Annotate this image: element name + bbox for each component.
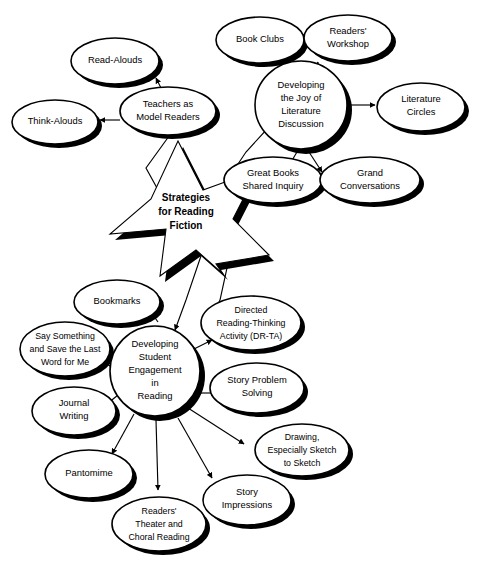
node-readers-theater-line-2: Theater and [135, 519, 183, 529]
node-dr-ta-line-1: Directed [235, 305, 268, 315]
node-drawing-especially-sketch-to-sketch[interactable]: Drawing, Especially Sketch to Sketch [255, 424, 353, 480]
link-engagement-to-story-impressions [178, 418, 212, 478]
concept-map-canvas: Strategies for Reading Fiction Read-Alou… [0, 0, 479, 572]
node-readers-workshop[interactable]: Readers' Workshop [304, 15, 396, 65]
node-say-something-line-1: Say Something [35, 331, 95, 341]
node-literature-circles-line-2: Circles [407, 106, 436, 117]
node-engagement-line-1: Developing [132, 338, 179, 349]
center-star-line-3: Fiction [170, 220, 203, 231]
node-grand-conversations[interactable]: Grand Conversations [320, 157, 424, 207]
node-book-clubs-label: Book Clubs [236, 33, 284, 44]
node-great-books-line-1: Great Books [247, 167, 299, 178]
node-developing-joy-of-literature-discussion[interactable]: Developing the Joy of Literature Discuss… [255, 61, 352, 154]
center-star-line-2: for Reading [158, 206, 214, 217]
node-say-something-line-3: Word for Me [41, 357, 89, 367]
node-pantomime[interactable]: Pantomime [45, 450, 137, 502]
node-story-problem-line-1: Story Problem [227, 374, 287, 385]
concept-map-diagram: Strategies for Reading Fiction Read-Alou… [0, 0, 479, 572]
node-read-alouds-label: Read-Alouds [88, 54, 143, 65]
node-think-alouds[interactable]: Think-Alouds [12, 100, 102, 148]
node-story-problem-line-2: Solving [242, 387, 273, 398]
node-teachers-as-model-readers[interactable]: Teachers as Model Readers [120, 87, 220, 139]
node-engagement-line-2: Student [139, 351, 172, 362]
node-readers-workshop-line-2: Workshop [327, 38, 369, 49]
node-journal-writing-line-2: Writing [60, 410, 89, 421]
node-drawing-line-2: Especially Sketch [268, 445, 337, 455]
node-story-impressions[interactable]: Story Impressions [203, 475, 295, 529]
node-story-problem-solving[interactable]: Story Problem Solving [210, 363, 308, 417]
node-journal-writing-line-1: Journal [59, 397, 90, 408]
node-teachers-line-2: Model Readers [136, 111, 200, 122]
node-directed-reading-thinking-activity[interactable]: Directed Reading-Thinking Activity (DR-T… [201, 296, 305, 354]
node-literature-circles-line-1: Literature [401, 93, 441, 104]
node-joy-line-1: Developing [278, 79, 325, 90]
node-think-alouds-label: Think-Alouds [28, 115, 83, 126]
node-dr-ta-line-3: Activity (DR-TA) [220, 331, 282, 341]
node-readers-theater-line-1: Readers' [142, 506, 177, 516]
node-engagement-line-3: Engagement [128, 364, 182, 375]
node-read-alouds[interactable]: Read-Alouds [71, 38, 163, 88]
node-teachers-line-1: Teachers as [143, 98, 194, 109]
node-joy-line-4: Discussion [278, 118, 323, 129]
link-engagement-to-readers-theater [156, 420, 158, 490]
node-say-something-line-2: and Save the Last [30, 344, 101, 354]
node-pantomime-label: Pantomime [65, 467, 112, 478]
node-readers-workshop-line-1: Readers' [329, 25, 366, 36]
node-joy-line-3: Literature [281, 105, 321, 116]
node-story-impressions-line-2: Impressions [222, 499, 273, 510]
node-literature-circles[interactable]: Literature Circles [377, 83, 469, 135]
node-grand-conversations-line-2: Conversations [340, 180, 400, 191]
node-joy-line-2: the Joy of [281, 92, 322, 103]
node-engagement-line-5: Reading [138, 390, 173, 401]
node-dr-ta-line-2: Reading-Thinking [217, 318, 286, 328]
node-great-books-line-2: Shared Inquiry [243, 180, 304, 191]
node-engagement-line-4: in [151, 377, 158, 388]
node-readers-theater-line-3: Choral Reading [128, 532, 189, 542]
node-bookmarks[interactable]: Bookmarks [74, 280, 164, 328]
node-story-impressions-line-1: Story [236, 486, 258, 497]
node-say-something-save-last-word[interactable]: Say Something and Save the Last Word for… [20, 322, 114, 380]
node-drawing-line-3: to Sketch [284, 458, 321, 468]
node-bookmarks-label: Bookmarks [94, 295, 141, 306]
node-grand-conversations-line-1: Grand [357, 167, 383, 178]
node-readers-theater-choral-reading[interactable]: Readers' Theater and Choral Reading [112, 497, 210, 555]
center-star-line-1: Strategies [162, 192, 211, 203]
link-engagement-to-drawing [188, 408, 244, 444]
node-developing-student-engagement-in-reading[interactable]: Developing Student Engagement in Reading [110, 326, 205, 421]
node-journal-writing[interactable]: Journal Writing [32, 387, 120, 439]
node-book-clubs[interactable]: Book Clubs [216, 17, 308, 67]
node-drawing-line-1: Drawing, [285, 432, 320, 442]
